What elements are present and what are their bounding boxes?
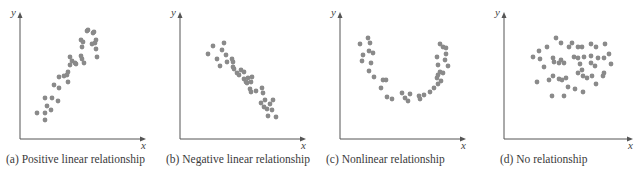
data-point xyxy=(400,91,405,96)
data-point xyxy=(49,108,54,113)
y-axis-arrow-icon xyxy=(18,12,23,18)
data-point xyxy=(567,45,572,50)
data-point xyxy=(246,76,251,81)
data-point xyxy=(274,115,279,120)
data-point xyxy=(231,60,236,65)
data-point xyxy=(79,54,84,59)
data-point xyxy=(79,38,84,43)
data-point xyxy=(566,85,571,90)
data-point xyxy=(562,61,567,66)
data-point xyxy=(259,101,264,106)
data-point xyxy=(607,52,612,57)
data-point xyxy=(43,118,48,123)
data-point xyxy=(562,94,567,99)
data-point xyxy=(535,80,540,85)
data-point xyxy=(235,71,240,76)
data-point xyxy=(590,74,595,79)
data-point xyxy=(361,53,366,58)
data-point xyxy=(68,55,73,60)
data-point xyxy=(537,49,542,54)
data-point xyxy=(82,61,87,66)
data-point xyxy=(360,59,365,64)
data-point xyxy=(552,60,557,65)
data-point xyxy=(408,92,413,97)
data-point xyxy=(576,71,581,76)
data-point xyxy=(531,55,536,60)
data-point xyxy=(564,76,569,81)
data-point xyxy=(254,89,259,94)
x-axis-label: x xyxy=(628,139,633,151)
data-point xyxy=(572,55,577,60)
y-axis-label: y xyxy=(171,6,176,18)
data-point xyxy=(436,63,441,68)
data-point xyxy=(580,68,585,73)
data-point xyxy=(594,45,599,50)
data-point xyxy=(550,94,555,99)
data-point xyxy=(263,98,268,103)
data-point xyxy=(589,42,594,47)
scatter-plot-a xyxy=(0,0,160,150)
data-point xyxy=(206,52,211,57)
data-point xyxy=(538,57,543,62)
data-point xyxy=(603,42,608,47)
data-point xyxy=(444,52,449,57)
y-axis-arrow-icon xyxy=(338,12,343,18)
data-point xyxy=(418,97,423,102)
data-point xyxy=(573,87,578,92)
data-point xyxy=(35,111,40,116)
data-point xyxy=(218,64,223,69)
y-axis-label: y xyxy=(331,6,336,18)
data-point xyxy=(596,56,601,61)
data-point xyxy=(232,67,237,72)
data-point xyxy=(92,30,97,35)
scatter-plot-c xyxy=(320,0,480,150)
data-point xyxy=(358,42,363,47)
data-point xyxy=(80,45,85,50)
data-point xyxy=(551,74,556,79)
y-axis-arrow-icon xyxy=(502,12,507,18)
data-point xyxy=(443,58,448,63)
data-point xyxy=(385,95,390,100)
data-point xyxy=(582,55,587,60)
data-point xyxy=(220,48,225,53)
data-point xyxy=(242,70,247,75)
data-point xyxy=(43,96,48,101)
data-point xyxy=(446,64,451,69)
data-point xyxy=(432,86,437,91)
data-point xyxy=(270,108,275,113)
data-point xyxy=(542,65,547,70)
panel-a: y x (a) Positive linear relationship xyxy=(0,0,160,177)
data-point xyxy=(593,64,598,69)
data-point xyxy=(594,82,599,87)
data-point xyxy=(554,36,559,41)
data-point xyxy=(578,62,583,67)
caption-b: (b) Negative linear relationship xyxy=(166,153,310,165)
data-point xyxy=(368,41,373,46)
data-point xyxy=(602,56,607,61)
data-point xyxy=(52,83,57,88)
data-point xyxy=(559,41,564,46)
data-point xyxy=(57,86,62,91)
data-point xyxy=(86,28,91,33)
data-point xyxy=(439,79,444,84)
data-point xyxy=(56,99,61,104)
data-point xyxy=(371,51,376,56)
data-point xyxy=(90,42,95,47)
x-axis-label: x xyxy=(461,139,466,151)
data-point xyxy=(609,62,614,67)
data-point xyxy=(428,90,433,95)
data-point xyxy=(547,78,552,83)
data-point xyxy=(406,99,411,104)
data-point xyxy=(369,61,374,66)
data-point xyxy=(261,91,266,96)
data-point xyxy=(580,45,585,50)
data-point xyxy=(50,96,55,101)
x-axis-label: x xyxy=(301,139,306,151)
data-point xyxy=(441,71,446,76)
data-point xyxy=(222,41,227,46)
scatter-plot-b xyxy=(160,0,320,150)
data-point xyxy=(589,61,594,66)
scatter-plot-d xyxy=(480,0,638,150)
data-point xyxy=(249,90,254,95)
data-point xyxy=(422,93,427,98)
